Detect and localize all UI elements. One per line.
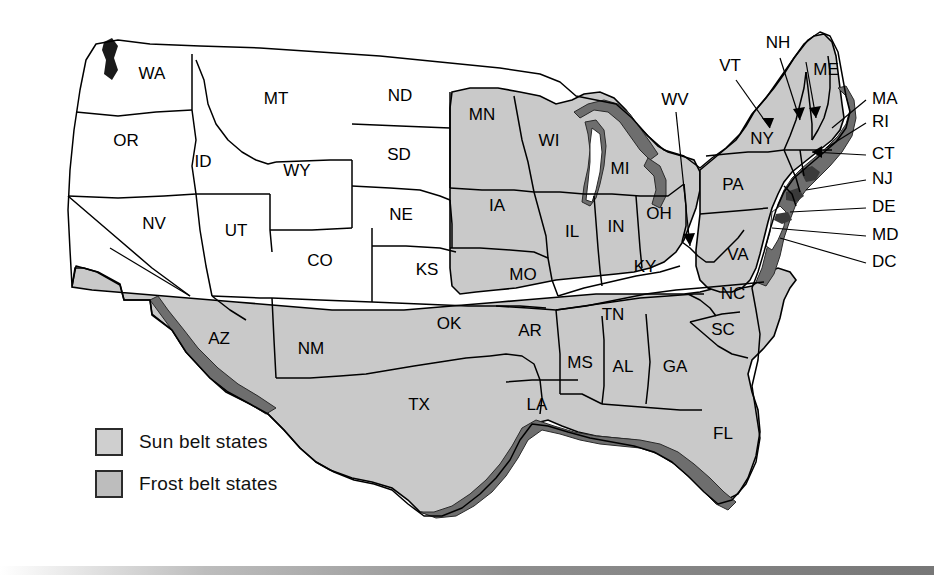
legend-label-sun-belt: Sun belt states bbox=[139, 431, 268, 453]
state-label-fl: FL bbox=[713, 424, 733, 443]
callout-label-ri: RI bbox=[872, 112, 889, 131]
state-label-nd: ND bbox=[388, 86, 413, 105]
state-label-wy: WY bbox=[283, 161, 310, 180]
state-label-in: IN bbox=[608, 217, 625, 236]
state-label-ks: KS bbox=[416, 260, 439, 279]
state-label-nc: NC bbox=[721, 284, 746, 303]
state-label-oh: OH bbox=[646, 204, 672, 223]
state-label-mo: MO bbox=[509, 265, 536, 284]
legend-swatch-frost-belt bbox=[95, 470, 123, 498]
state-label-ky: KY bbox=[634, 257, 657, 276]
state-label-az: AZ bbox=[208, 329, 230, 348]
state-label-wi: WI bbox=[539, 131, 560, 150]
callout-label-nh: NH bbox=[766, 33, 791, 52]
state-label-ia: IA bbox=[489, 196, 506, 215]
border-co-nm bbox=[272, 298, 372, 302]
bottom-bar-fill bbox=[0, 566, 934, 575]
state-label-va: VA bbox=[727, 245, 749, 264]
state-label-al: AL bbox=[613, 357, 634, 376]
state-label-pa: PA bbox=[722, 175, 744, 194]
state-label-ne: NE bbox=[389, 205, 413, 224]
border-wa-or bbox=[76, 110, 192, 116]
state-label-ny: NY bbox=[750, 129, 774, 148]
border-sd-ne bbox=[352, 186, 450, 200]
border-nv-ut bbox=[196, 194, 212, 296]
leader-line-de bbox=[790, 208, 866, 212]
map-root: WAORIDMTWYNVUTCONDSDNEKSMNIAMOWIILMIINOH… bbox=[0, 0, 934, 575]
state-label-nv: NV bbox=[142, 214, 166, 233]
border-ut-wy-co bbox=[270, 194, 272, 252]
callout-label-dc: DC bbox=[872, 252, 897, 271]
state-label-mn: MN bbox=[469, 105, 495, 124]
callout-label-wv: WV bbox=[661, 90, 689, 109]
state-label-me: ME bbox=[813, 60, 839, 79]
state-label-sc: SC bbox=[711, 320, 735, 339]
state-label-ga: GA bbox=[663, 357, 688, 376]
state-label-tx: TX bbox=[408, 395, 430, 414]
state-label-nm: NM bbox=[298, 339, 324, 358]
callout-label-md: MD bbox=[872, 225, 898, 244]
legend-label-frost-belt: Frost belt states bbox=[139, 473, 278, 495]
state-label-ms: MS bbox=[567, 353, 593, 372]
state-label-ar: AR bbox=[518, 321, 542, 340]
state-label-la: LA bbox=[527, 395, 548, 414]
border-ne-ks bbox=[372, 246, 456, 252]
border-wy-co bbox=[270, 228, 352, 230]
coast-detail-puget-sound bbox=[102, 38, 118, 80]
callout-label-nj: NJ bbox=[872, 169, 893, 188]
border-id-mt bbox=[196, 60, 276, 164]
callout-label-ma: MA bbox=[872, 89, 898, 108]
state-label-ok: OK bbox=[437, 314, 462, 333]
state-label-wa: WA bbox=[139, 64, 166, 83]
state-label-mt: MT bbox=[264, 89, 289, 108]
state-label-id: ID bbox=[195, 152, 212, 171]
state-label-sd: SD bbox=[387, 145, 411, 164]
callout-label-de: DE bbox=[872, 197, 896, 216]
callout-label-vt: VT bbox=[719, 56, 741, 75]
legend-item-frost-belt[interactable]: Frost belt states bbox=[95, 466, 325, 502]
state-label-il: IL bbox=[565, 222, 579, 241]
border-nd-sd bbox=[352, 124, 450, 128]
bottom-bar bbox=[0, 565, 934, 575]
legend-item-sun-belt[interactable]: Sun belt states bbox=[95, 424, 325, 460]
leader-line-dc bbox=[780, 238, 866, 263]
leader-line-ca bbox=[110, 248, 190, 296]
border-ut-az bbox=[212, 296, 272, 298]
state-label-co: CO bbox=[307, 251, 333, 270]
state-label-tn: TN bbox=[602, 305, 625, 324]
map-legend: Sun belt states Frost belt states bbox=[95, 424, 325, 502]
callout-label-ct: CT bbox=[872, 144, 895, 163]
legend-swatch-sun-belt bbox=[95, 428, 123, 456]
state-label-ut: UT bbox=[225, 221, 248, 240]
state-label-mi: MI bbox=[611, 159, 630, 178]
border-or-nv-ca bbox=[68, 194, 196, 198]
state-label-or: OR bbox=[113, 131, 139, 150]
